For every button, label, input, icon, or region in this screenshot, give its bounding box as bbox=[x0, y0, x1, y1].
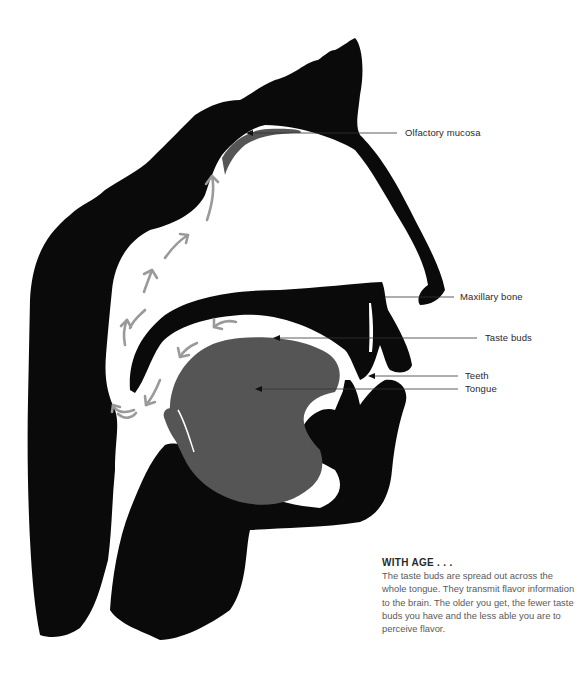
label-maxillary-bone: Maxillary bone bbox=[460, 291, 523, 302]
airflow-arrow bbox=[178, 343, 197, 357]
arrowhead-teeth bbox=[368, 373, 375, 379]
label-tongue: Tongue bbox=[465, 383, 497, 394]
airflow-arrow bbox=[165, 234, 188, 258]
label-olfactory-mucosa: Olfactory mucosa bbox=[405, 127, 481, 138]
label-teeth: Teeth bbox=[465, 370, 489, 381]
airflow-arrow bbox=[206, 176, 218, 220]
airflow-arrow bbox=[145, 380, 160, 405]
label-taste-buds: Taste buds bbox=[485, 332, 532, 343]
caption-block: WITH AGE . . . The taste buds are spread… bbox=[382, 557, 580, 635]
airflow-arrow bbox=[130, 310, 145, 328]
airflow-arrow bbox=[214, 319, 236, 329]
airflow-arrow bbox=[121, 320, 131, 345]
airflow-arrow bbox=[144, 270, 157, 292]
caption-body: The taste buds are spread out across the… bbox=[382, 569, 580, 635]
caption-title: WITH AGE . . . bbox=[382, 557, 580, 568]
